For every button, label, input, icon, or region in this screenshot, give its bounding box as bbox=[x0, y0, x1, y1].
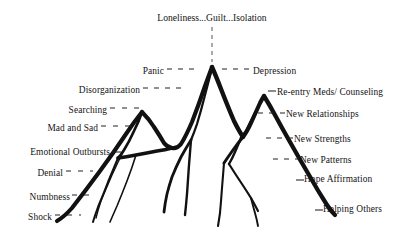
ridge-panic-front-lower bbox=[185, 140, 191, 215]
label-denial: Denial bbox=[37, 168, 63, 178]
label-hope-affirmation: Hope Affirmation bbox=[304, 174, 372, 184]
label-panic: Panic bbox=[143, 66, 164, 76]
label-helping-others: Helping Others bbox=[323, 204, 382, 214]
diagram-title: Loneliness...Guilt...Isolation bbox=[119, 12, 305, 23]
panic-peak-right-slope bbox=[212, 67, 243, 137]
ridge-mid-shoulder-lower bbox=[218, 163, 224, 226]
label-new-relationships: New Relationships bbox=[286, 109, 359, 119]
label-mad-and-sad: Mad and Sad bbox=[47, 123, 98, 133]
label-disorganization: Disorganization bbox=[79, 85, 140, 95]
searching-peak-right-slope bbox=[142, 112, 172, 148]
ridge-searching-inner bbox=[118, 112, 142, 158]
label-reentry-meds-counseling: Re-entry Meds/ Counseling bbox=[277, 87, 383, 97]
ridge-panic-front bbox=[191, 68, 212, 140]
label-searching: Searching bbox=[69, 105, 107, 115]
label-shock: Shock bbox=[28, 212, 52, 222]
label-numbness: Numbness bbox=[30, 192, 70, 202]
label-new-patterns: New Patterns bbox=[300, 155, 351, 165]
ridge-left-foot bbox=[110, 155, 136, 222]
ridge-right-inner bbox=[229, 164, 258, 211]
ridge-valley-floor bbox=[118, 148, 172, 158]
label-new-strengths: New Strengths bbox=[294, 134, 351, 144]
grief-mountain-diagram: Loneliness...Guilt...Isolation Panic Dis… bbox=[0, 0, 417, 241]
label-emotional-outbursts: Emotional Outbursts bbox=[30, 147, 110, 157]
label-depression: Depression bbox=[253, 66, 296, 76]
ridge-reentry-inner-left bbox=[241, 96, 264, 138]
